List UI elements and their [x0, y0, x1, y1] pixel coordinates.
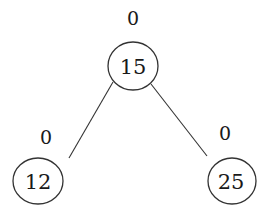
node-value-root: 15 — [120, 55, 147, 79]
node-value-left: 12 — [25, 170, 52, 194]
balance-factor-left: 0 — [40, 126, 52, 148]
edge-root-right — [151, 84, 207, 156]
balance-factor-right: 0 — [219, 122, 231, 144]
edge-root-left — [69, 82, 113, 158]
balance-factor-root: 0 — [127, 7, 139, 29]
tree-diagram: 0 15 0 12 0 25 — [0, 0, 275, 222]
tree-node-right: 0 25 — [208, 122, 256, 204]
tree-node-left: 0 12 — [13, 126, 63, 204]
tree-node-root: 0 15 — [108, 7, 158, 90]
node-value-right: 25 — [218, 170, 245, 194]
